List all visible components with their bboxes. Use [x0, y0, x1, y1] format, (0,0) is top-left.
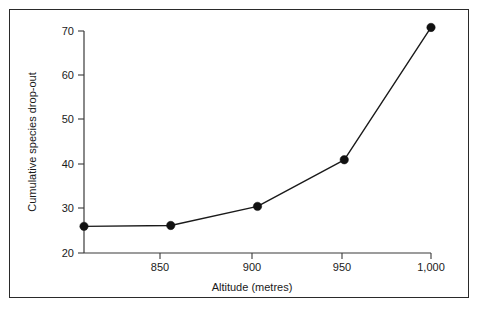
data-series-line — [84, 27, 431, 226]
data-point-950 — [340, 156, 348, 164]
y-tick-label-30: 30 — [62, 202, 74, 214]
y-tick-label-50: 50 — [62, 113, 74, 125]
data-point-1000 — [427, 23, 435, 31]
data-point-850 — [167, 221, 175, 229]
y-axis-tick-labels: 70 60 50 40 30 20 — [62, 25, 74, 259]
x-axis-title: Altitude (metres) — [212, 281, 293, 293]
y-axis-title: Cumulative species drop-out — [26, 72, 38, 211]
x-tick-label-950: 950 — [333, 261, 351, 273]
y-tick-label-70: 70 — [62, 25, 74, 37]
y-axis-ticks — [78, 31, 84, 253]
data-series-markers — [80, 23, 435, 230]
x-tick-label-900: 900 — [243, 261, 261, 273]
data-point-800 — [80, 222, 88, 230]
x-tick-label-1000: 1,000 — [417, 261, 445, 273]
line-chart: 70 60 50 40 30 20 850 900 950 1,000 Alti… — [0, 0, 480, 309]
x-axis-tick-labels: 850 900 950 1,000 — [151, 261, 445, 273]
x-axis-ticks — [160, 253, 431, 259]
figure-container: 70 60 50 40 30 20 850 900 950 1,000 Alti… — [0, 0, 480, 309]
y-tick-label-40: 40 — [62, 158, 74, 170]
y-tick-label-60: 60 — [62, 69, 74, 81]
x-tick-label-850: 850 — [151, 261, 169, 273]
y-tick-label-20: 20 — [62, 247, 74, 259]
data-point-900 — [253, 202, 261, 210]
